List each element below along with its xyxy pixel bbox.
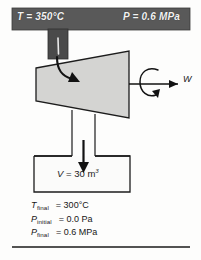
legend-value: = 0.0 Pa bbox=[59, 214, 93, 224]
legend-subscript: final bbox=[37, 231, 49, 238]
tank-volume-value: 30 bbox=[74, 168, 85, 179]
legend-value: = 0.6 MPa bbox=[56, 227, 97, 237]
legend-row: Tfinal= 300°C bbox=[31, 200, 89, 210]
legend-subscript: initial bbox=[37, 218, 52, 225]
inlet-temperature-label: T = 350°C bbox=[17, 11, 64, 22]
legend-value: = 300°C bbox=[56, 200, 89, 210]
shaft-work-label: W bbox=[183, 74, 192, 84]
legend-row: Pfinal= 0.6 MPa bbox=[31, 227, 97, 237]
tank-volume-symbol: V bbox=[57, 168, 63, 179]
inlet-flow-tick-icon bbox=[58, 38, 59, 54]
tank-volume-equals: = bbox=[66, 168, 72, 179]
turbine-body bbox=[36, 51, 129, 118]
inlet-pressure-label: P = 0.6 MPa bbox=[123, 11, 180, 22]
legend-row: Pinitial= 0.0 Pa bbox=[31, 214, 93, 224]
tank-volume-unit-exponent: 3 bbox=[95, 167, 98, 174]
shaft-work-arrow-head-icon bbox=[169, 80, 178, 88]
turbine-tank-figure: T = 350°C P = 0.6 MPa V = 30 m3 W Tfinal… bbox=[0, 0, 201, 260]
tank-volume-label: V = 30 m3 bbox=[57, 168, 99, 179]
legend-subscript: final bbox=[37, 204, 49, 211]
rotation-arrow-head-icon bbox=[152, 89, 160, 98]
